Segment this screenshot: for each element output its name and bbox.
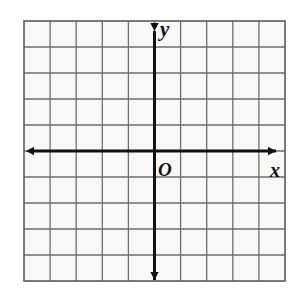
coordinate-plane-figure: y x O (0, 0, 303, 293)
origin-label: O (158, 160, 172, 179)
y-axis-label: y (160, 19, 169, 40)
coordinate-grid-svg (0, 0, 303, 293)
x-axis-label: x (270, 160, 280, 180)
